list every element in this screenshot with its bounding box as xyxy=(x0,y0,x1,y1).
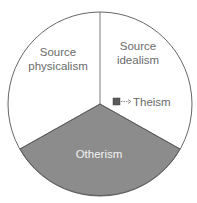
theism-arrow-head-icon xyxy=(128,100,131,104)
label-source-idealism-1: Source xyxy=(120,40,156,52)
theism-marker-icon xyxy=(113,98,120,105)
label-source-idealism-2: idealism xyxy=(117,54,159,66)
pie-diagram: Source physicalism Source idealism Other… xyxy=(0,0,197,203)
label-theism: Theism xyxy=(133,96,171,108)
label-source-physicalism-2: physicalism xyxy=(28,60,87,72)
label-otherism: Otherism xyxy=(76,148,123,160)
label-source-physicalism-1: Source xyxy=(40,46,76,58)
